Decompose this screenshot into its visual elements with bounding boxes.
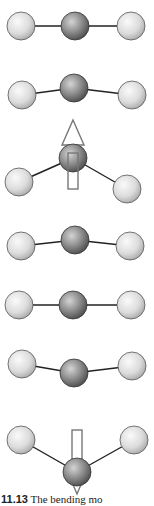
center-atom (63, 458, 91, 486)
outer-atom-right (117, 12, 145, 40)
caption-text: The bending mo (30, 493, 102, 505)
center-atom (59, 144, 87, 172)
frame-6 (8, 350, 146, 387)
outer-atom-right (118, 352, 146, 380)
outer-atom-left (5, 168, 33, 196)
center-atom (61, 226, 89, 254)
frame-5 (5, 291, 145, 319)
frame-7 (7, 426, 148, 494)
bending-mode-diagram (0, 0, 154, 506)
outer-atom-left (7, 12, 35, 40)
center-atom (60, 359, 88, 387)
outer-atom-left (8, 81, 36, 109)
arrow-up-icon (62, 120, 84, 145)
outer-atom-left (8, 350, 36, 378)
figure-number: 11.13 (1, 493, 28, 505)
center-atom (59, 291, 87, 319)
outer-atom-right (117, 291, 145, 319)
outer-atom-left (7, 232, 35, 260)
outer-atom-right (118, 81, 146, 109)
outer-atom-right (116, 232, 144, 260)
figure-caption: 11.13 The bending mo (1, 493, 103, 505)
center-atom (60, 74, 88, 102)
center-atom (61, 12, 89, 40)
frame-4 (7, 226, 144, 260)
outer-atom-right (120, 426, 148, 454)
frame-3 (5, 120, 141, 203)
frame-2 (8, 74, 146, 109)
outer-atom-left (5, 291, 33, 319)
outer-atom-left (7, 426, 35, 454)
frame-1 (7, 12, 145, 40)
outer-atom-right (113, 175, 141, 203)
